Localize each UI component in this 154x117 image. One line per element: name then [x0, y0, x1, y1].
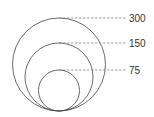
- legend-label-150: 150: [129, 38, 146, 49]
- legend-label-75: 75: [129, 65, 141, 76]
- legend-circle-300: [13, 18, 106, 111]
- size-legend: 300 150 75: [0, 0, 154, 117]
- legend-circle-75: [39, 70, 80, 111]
- legend-circle-150: [25, 43, 93, 111]
- legend-label-300: 300: [129, 13, 146, 24]
